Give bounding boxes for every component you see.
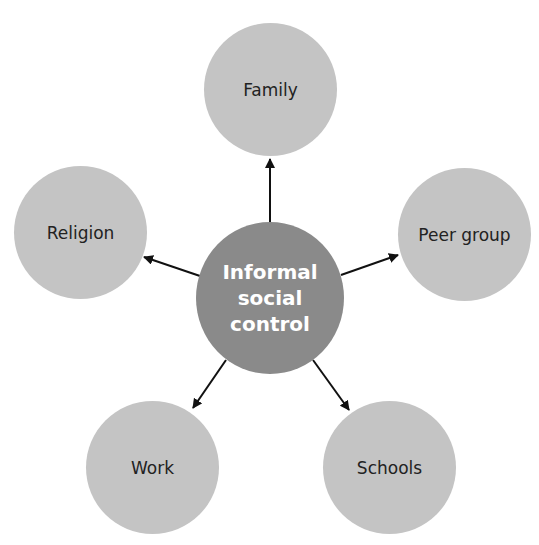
- node-peer-group: Peer group: [398, 168, 531, 301]
- node-work: Work: [86, 401, 219, 534]
- node-family-label: Family: [243, 80, 298, 100]
- diagram-canvas: Family Religion Peer group Work Schools …: [0, 0, 539, 545]
- arrow-to-peer-group: [341, 255, 398, 275]
- node-religion-label: Religion: [47, 223, 115, 243]
- arrow-to-religion: [144, 257, 200, 276]
- node-work-label: Work: [131, 458, 174, 478]
- center-label-line-2: social: [238, 285, 303, 311]
- center-label-line-3: control: [230, 311, 310, 337]
- center-label-line-1: Informal: [222, 259, 317, 285]
- node-informal-social-control: Informal social control: [196, 222, 344, 374]
- arrow-to-schools: [313, 360, 349, 410]
- node-family: Family: [204, 23, 337, 156]
- arrow-to-work: [193, 360, 226, 408]
- node-religion: Religion: [14, 166, 147, 299]
- node-peer-group-label: Peer group: [418, 225, 510, 245]
- node-schools: Schools: [323, 401, 456, 534]
- node-schools-label: Schools: [357, 458, 422, 478]
